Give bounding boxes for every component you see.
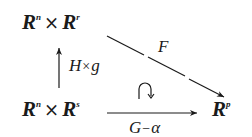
node-top-left: Rn×Rr	[22, 12, 80, 33]
label-part: H	[69, 56, 81, 75]
label-part: α	[151, 118, 160, 137]
base-1: R	[22, 10, 36, 34]
label-part: G	[129, 118, 141, 137]
product-operator: ×	[41, 99, 62, 120]
horizontal-arrow-label: G−α	[129, 119, 160, 136]
product-operator: ×	[41, 12, 62, 33]
exponent-2: r	[76, 12, 80, 22]
node-bottom-right: Rp	[212, 99, 231, 120]
label-part: F	[158, 37, 168, 56]
label-part: g	[91, 56, 100, 75]
base: R	[212, 97, 226, 121]
base-2: R	[62, 97, 76, 121]
base-2: R	[62, 10, 76, 34]
clockwise-curved-arrow-icon	[139, 83, 154, 99]
exponent-2: s	[76, 99, 80, 109]
label-operator: −	[141, 121, 151, 136]
node-bottom-left: Rn×Rs	[22, 99, 80, 120]
vertical-arrow-label: H×g	[69, 57, 100, 74]
base-1: R	[22, 97, 36, 121]
exponent: p	[226, 99, 231, 109]
diagonal-arrow-label: F	[158, 38, 168, 55]
label-operator: ×	[81, 59, 91, 74]
